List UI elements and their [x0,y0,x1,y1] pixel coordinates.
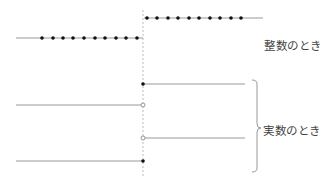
integer-point [114,36,118,40]
integer-point [145,16,149,20]
open-endpoint-3 [141,136,145,140]
integer-point [135,36,139,40]
integer-point [218,16,222,20]
real-case-label: 実数のとき [263,122,321,138]
integer-point [229,16,233,20]
integer-point [239,16,243,20]
integer-point [71,36,75,40]
integer-point [93,36,97,40]
closed-endpoint-4 [141,159,145,163]
integer-case-label: 整数のとき [264,37,322,53]
integer-point [124,36,128,40]
curly-brace-icon [252,80,261,172]
integer-point [155,16,159,20]
integer-point [51,36,55,40]
integer-point [166,16,170,20]
integer-point [197,16,201,20]
integer-point [103,36,107,40]
integer-point [82,36,86,40]
closed-endpoint-1 [141,82,145,86]
integer-point [208,16,212,20]
integer-point [40,36,44,40]
open-endpoint-2 [141,103,145,107]
integer-point [187,16,191,20]
integer-point [176,16,180,20]
integer-case-graph [16,16,263,40]
real-case-graph [16,82,245,163]
integer-point [61,36,65,40]
step-function-diagram [0,0,336,187]
